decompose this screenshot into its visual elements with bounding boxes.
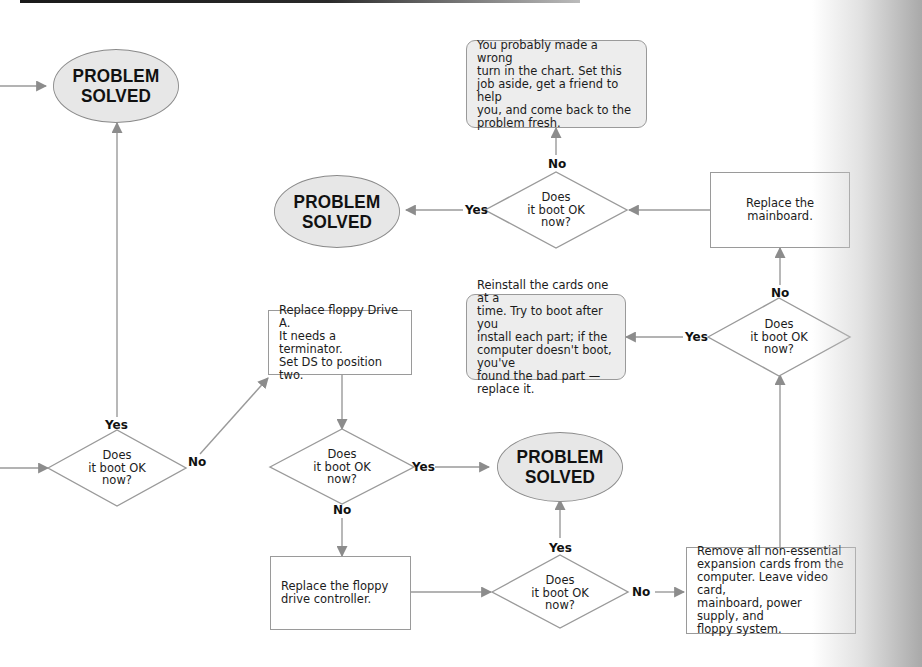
problem-solved-oval-top-left: PROBLEM SOLVED [53, 49, 179, 123]
wrong-turn-note: You probably made a wrong turn in the ch… [466, 40, 647, 128]
remove-cards-box: Remove all non-essential expansion cards… [686, 547, 856, 634]
label-top-yes: Yes [465, 203, 488, 217]
decision-text-top: Does it boot OK now? [506, 187, 606, 233]
decision-text-bottom: Does it boot OK now? [510, 570, 610, 616]
label-left-yes: Yes [105, 418, 128, 432]
decision-text-mid: Does it boot OK now? [292, 444, 392, 490]
replace-floppy-a-box: Replace floppy Drive A. It needs a termi… [268, 310, 412, 375]
label-top-no: No [548, 157, 566, 171]
label-right-yes: Yes [685, 330, 708, 344]
label-bottom-no: No [632, 585, 650, 599]
label-mid-no: No [333, 503, 351, 517]
reinstall-cards-note: Reinstall the cards one at a time. Try t… [466, 294, 626, 380]
replace-controller-box: Replace the floppy drive controller. [270, 556, 411, 630]
decision-text-right: Does it boot OK now? [729, 314, 829, 360]
label-right-no: No [771, 286, 789, 300]
problem-solved-oval-center: PROBLEM SOLVED [497, 432, 623, 502]
decision-text-left: Does it boot OK now? [67, 445, 167, 491]
label-left-no: No [188, 455, 206, 469]
replace-mainboard-box: Replace the mainboard. [710, 172, 850, 248]
label-mid-yes: Yes [412, 460, 435, 474]
label-bottom-yes: Yes [549, 541, 572, 555]
problem-solved-oval-mid-left: PROBLEM SOLVED [274, 175, 400, 248]
